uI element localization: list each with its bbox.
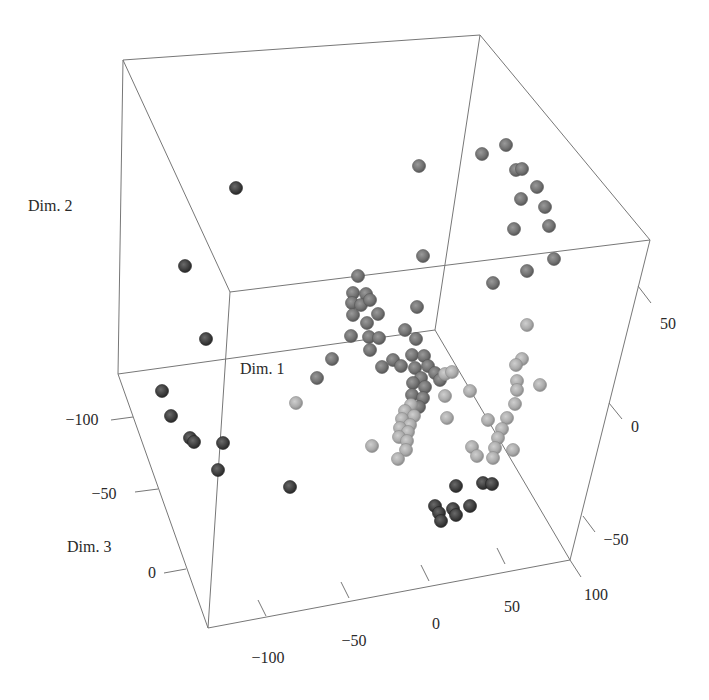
- box-edge: [123, 35, 480, 60]
- data-point: [361, 317, 374, 330]
- data-points: [156, 139, 561, 528]
- data-point: [156, 385, 169, 398]
- data-point: [486, 478, 499, 491]
- data-point: [531, 181, 544, 194]
- data-point: [516, 163, 529, 176]
- data-point: [364, 344, 377, 357]
- data-point: [435, 515, 448, 528]
- data-point: [217, 437, 230, 450]
- z-tick: [111, 417, 133, 420]
- y-tick: [638, 286, 651, 303]
- data-point: [347, 309, 360, 322]
- y-tick-label: −50: [603, 531, 628, 548]
- data-point: [482, 414, 495, 427]
- scatter-3d-chart: −100−50050100500−50−100−500 Dim. 1 Dim. …: [0, 0, 709, 700]
- x-tick: [570, 560, 581, 577]
- y-tick: [583, 516, 595, 532]
- y-tick-label: 0: [631, 418, 639, 435]
- x-axis-label: Dim. 1: [240, 360, 284, 377]
- z-tick-label: 0: [148, 564, 156, 581]
- bounding-box: [118, 35, 650, 628]
- data-point: [376, 361, 389, 374]
- data-point: [509, 398, 522, 411]
- x-tick: [421, 565, 429, 581]
- data-point: [521, 265, 534, 278]
- data-point: [464, 500, 477, 513]
- data-point: [406, 349, 419, 362]
- box-edge: [123, 60, 230, 292]
- data-point: [539, 201, 552, 214]
- x-tick: [497, 548, 505, 564]
- box-edge: [435, 330, 570, 560]
- axis-tick-labels: −100−50050100500−50−100−500: [65, 315, 676, 666]
- z-tick: [135, 489, 158, 492]
- data-point: [311, 372, 324, 385]
- data-point: [212, 464, 225, 477]
- x-tick-label: −100: [251, 649, 284, 666]
- data-point: [476, 148, 489, 161]
- data-point: [439, 390, 452, 403]
- data-point: [543, 220, 556, 233]
- data-point: [507, 444, 520, 457]
- data-point: [364, 294, 377, 307]
- data-point: [450, 480, 463, 493]
- data-point: [366, 440, 379, 453]
- data-point: [290, 397, 303, 410]
- data-point: [326, 353, 339, 366]
- data-point: [372, 308, 385, 321]
- x-tick-label: 100: [584, 586, 608, 603]
- data-point: [410, 333, 423, 346]
- data-point: [179, 260, 192, 273]
- data-point: [500, 139, 513, 152]
- data-point: [417, 250, 430, 263]
- data-point: [510, 359, 523, 372]
- z-tick-label: −50: [91, 485, 116, 502]
- y-axis-label: Dim. 2: [28, 197, 72, 214]
- z-tick: [164, 569, 186, 573]
- data-point: [352, 270, 365, 283]
- data-point: [284, 481, 297, 494]
- x-tick-label: 50: [504, 598, 520, 615]
- box-edge: [230, 240, 650, 292]
- z-tick-label: −100: [65, 411, 98, 428]
- data-point: [508, 223, 521, 236]
- data-point: [521, 319, 534, 332]
- data-point: [450, 509, 463, 522]
- data-point: [471, 450, 484, 463]
- box-edge: [118, 374, 208, 628]
- data-point: [464, 385, 477, 398]
- data-point: [515, 193, 528, 206]
- x-tick: [341, 582, 349, 598]
- data-point: [411, 301, 424, 314]
- data-point: [534, 379, 547, 392]
- x-tick-label: −50: [341, 632, 366, 649]
- box-edge: [570, 240, 650, 560]
- z-axis-label: Dim. 3: [67, 538, 111, 555]
- data-point: [345, 330, 358, 343]
- data-point: [487, 452, 500, 465]
- data-point: [441, 412, 454, 425]
- data-point: [446, 366, 459, 379]
- data-point: [407, 377, 420, 390]
- data-point: [200, 333, 213, 346]
- box-edge: [208, 560, 570, 628]
- data-point: [373, 332, 386, 345]
- data-point: [487, 277, 500, 290]
- data-point: [548, 253, 561, 266]
- x-tick: [258, 600, 266, 616]
- data-point: [392, 453, 405, 466]
- data-point: [399, 324, 412, 337]
- data-point: [165, 410, 178, 423]
- data-point: [511, 384, 524, 397]
- x-tick-label: 0: [432, 615, 440, 632]
- data-point: [188, 436, 201, 449]
- box-edge: [118, 60, 123, 374]
- y-tick: [609, 403, 622, 419]
- data-point: [413, 160, 426, 173]
- data-point: [230, 182, 243, 195]
- y-tick-label: 50: [660, 315, 676, 332]
- box-edge: [435, 35, 480, 330]
- data-point: [395, 360, 408, 373]
- box-edge: [480, 35, 650, 240]
